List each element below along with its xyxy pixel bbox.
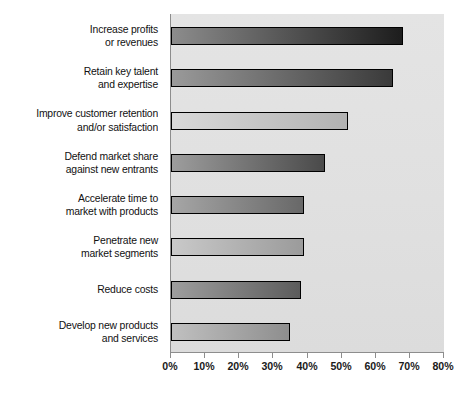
bar [171, 112, 348, 130]
category-label: Improve customer retention and/or satisf… [5, 107, 158, 133]
category-label: Increase profits or revenues [5, 23, 158, 49]
plot-area [170, 14, 444, 352]
bar [171, 196, 304, 214]
x-axis-tick [272, 352, 273, 358]
category-axis-labels: Increase profits or revenuesRetain key t… [0, 14, 164, 352]
category-label: Defend market share against new entrants [5, 150, 158, 176]
plot-background [171, 14, 444, 352]
x-axis-tick [341, 352, 342, 358]
x-axis-tick-label: 80% [422, 360, 464, 372]
bar [171, 154, 325, 172]
category-label: Accelerate time to market with products [5, 192, 158, 218]
bar [171, 27, 403, 45]
category-label: Develop new products and services [5, 319, 158, 345]
category-label: Reduce costs [5, 283, 158, 296]
x-axis-tick [409, 352, 410, 358]
bar [171, 69, 393, 87]
category-label: Retain key talent and expertise [5, 65, 158, 91]
x-axis-tick [170, 352, 171, 358]
bar-chart: Increase profits or revenuesRetain key t… [0, 0, 470, 400]
category-label: Penetrate new market segments [5, 234, 158, 260]
x-axis-tick [238, 352, 239, 358]
x-axis-tick [443, 352, 444, 358]
bar [171, 281, 301, 299]
bar [171, 323, 290, 341]
x-axis-tick [375, 352, 376, 358]
x-axis-tick [204, 352, 205, 358]
bar [171, 238, 304, 256]
x-axis-tick [307, 352, 308, 358]
